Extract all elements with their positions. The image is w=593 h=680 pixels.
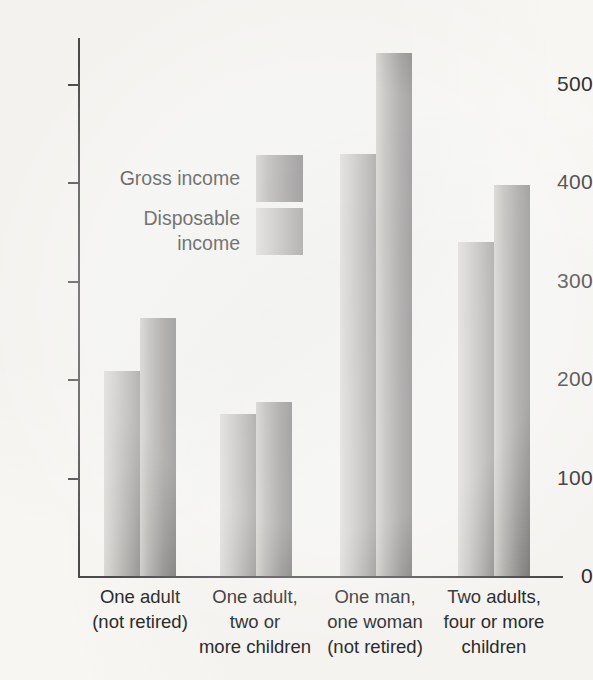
legend-swatch-disposable	[256, 208, 303, 255]
legend-swatch-gross	[256, 155, 303, 202]
y-tick-label-400: 400	[535, 170, 593, 194]
y-tick-label-300: 300	[535, 269, 593, 293]
bar-disposable-1	[220, 414, 256, 576]
bar-gross-3	[494, 185, 530, 576]
bar-chart: 500 400 300 200 100 0 One adult (not ret…	[0, 0, 593, 680]
legend-label-gross-line-0: Gross income	[80, 166, 240, 191]
x-label-3: Two adults, four or more children	[419, 584, 569, 659]
y-tick-label-100: 100	[535, 466, 593, 490]
bar-disposable-0	[104, 371, 140, 576]
x-axis-line	[78, 576, 563, 578]
y-tick-label-500: 500	[535, 72, 593, 96]
legend-label-disposable-line-1: income	[80, 231, 240, 256]
legend-label-disposable-line-0: Disposable	[80, 206, 240, 231]
x-label-3-line-0: Two adults,	[419, 584, 569, 609]
bar-disposable-2	[340, 154, 376, 576]
bar-disposable-3	[458, 242, 494, 576]
y-tick-200	[68, 379, 79, 381]
x-label-3-line-1: four or more	[419, 609, 569, 634]
bar-gross-1	[256, 402, 292, 576]
y-tick-100	[68, 478, 79, 480]
y-tick-500	[68, 84, 79, 86]
legend-label-gross: Gross income	[80, 166, 256, 191]
y-tick-400	[68, 182, 79, 184]
y-axis-line	[78, 38, 80, 578]
legend-item-disposable: Disposable income	[80, 206, 303, 256]
chart-page: 500 400 300 200 100 0 One adult (not ret…	[0, 0, 593, 680]
legend-item-gross: Gross income	[80, 155, 303, 202]
bar-gross-2	[376, 53, 412, 577]
y-tick-label-200: 200	[535, 367, 593, 391]
y-tick-300	[68, 281, 79, 283]
x-label-3-line-2: children	[419, 634, 569, 659]
legend-label-disposable: Disposable income	[80, 206, 256, 256]
bar-gross-0	[140, 318, 176, 576]
